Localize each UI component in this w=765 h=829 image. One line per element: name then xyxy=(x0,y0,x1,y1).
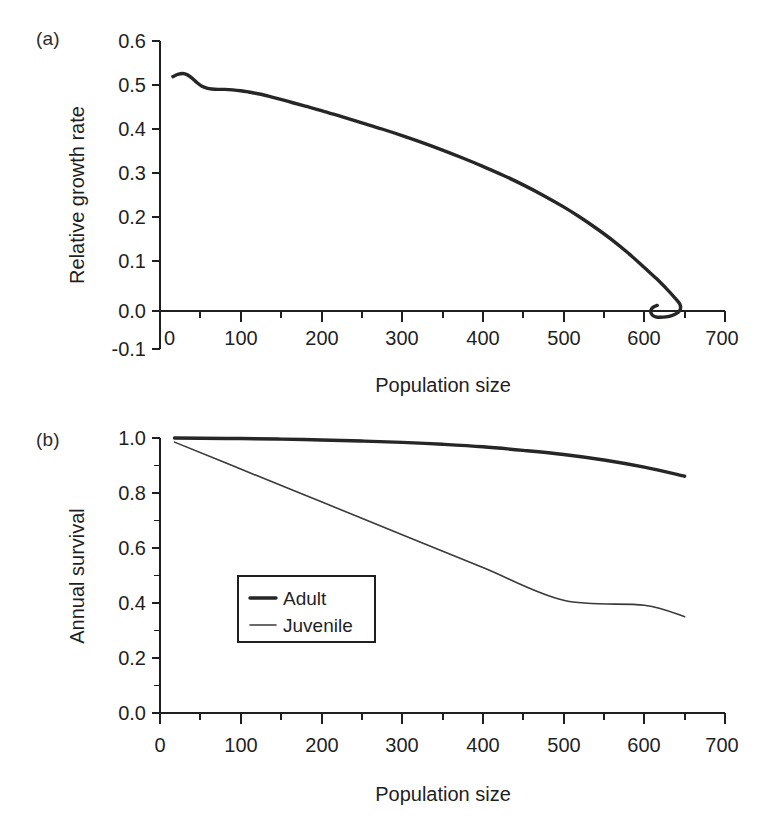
y-tick-label: 0.8 xyxy=(118,482,146,504)
x-tick-label: 0 xyxy=(154,734,165,756)
y-axis-title-a: Relative growth rate xyxy=(66,106,88,284)
x-tick-label: 400 xyxy=(466,734,499,756)
series-line-growth-rate xyxy=(173,74,681,318)
y-tick-label: 0.2 xyxy=(118,206,146,228)
panel-b-plot: 1.0 0.8 0.6 0.4 0.2 0.0 xyxy=(0,411,765,829)
x-tick-label: 500 xyxy=(547,327,580,349)
y-tick-label: 0.3 xyxy=(118,162,146,184)
x-tick-label: 300 xyxy=(385,327,418,349)
legend-label-juvenile: Juvenile xyxy=(283,615,353,636)
x-tick-label: 100 xyxy=(224,734,257,756)
x-axis-title-a: Population size xyxy=(375,374,511,396)
y-tick-labels-a: 0.6 0.5 0.4 0.3 0.2 0.1 0.0 -0.1 xyxy=(112,30,146,360)
legend-label-adult: Adult xyxy=(283,588,327,609)
y-ticks-a xyxy=(152,41,160,349)
y-tick-label: 0.6 xyxy=(118,537,146,559)
y-axis-title-b: Annual survival xyxy=(66,508,88,644)
x-tick-label: 400 xyxy=(466,327,499,349)
y-tick-label: 0.4 xyxy=(118,118,146,140)
x-tick-label: 200 xyxy=(305,734,338,756)
y-tick-labels-b: 1.0 0.8 0.6 0.4 0.2 0.0 xyxy=(118,427,146,724)
x-tick-label: 500 xyxy=(547,734,580,756)
x-tick-label: 600 xyxy=(627,327,660,349)
x-tick-label: 600 xyxy=(627,734,660,756)
y-ticks-b xyxy=(152,438,160,713)
y-tick-label: 0.0 xyxy=(118,300,146,322)
y-tick-label: 0.2 xyxy=(118,647,146,669)
y-tick-label: 0.6 xyxy=(118,30,146,52)
x-tick-label: 200 xyxy=(305,327,338,349)
x-ticks-a xyxy=(160,311,725,322)
y-tick-label: 0.1 xyxy=(118,250,146,272)
panel-a: (a) 0.6 0.5 0.4 0.3 xyxy=(0,0,765,415)
x-tick-labels-a: 0 100 200 300 400 500 600 700 xyxy=(164,327,739,349)
x-ticks-b xyxy=(160,713,725,724)
legend: Adult Juvenile xyxy=(238,576,375,642)
figure-root: (a) 0.6 0.5 0.4 0.3 xyxy=(0,0,765,829)
x-axis-title-b: Population size xyxy=(375,783,511,805)
y-tick-label: 0.5 xyxy=(118,74,146,96)
x-tick-label: 0 xyxy=(164,327,175,349)
panel-b: (b) 1.0 0.8 0.6 xyxy=(0,411,765,826)
panel-a-plot: 0.6 0.5 0.4 0.3 0.2 0.1 0.0 -0.1 xyxy=(0,0,765,415)
y-tick-label: 0.4 xyxy=(118,592,146,614)
x-tick-labels-b: 0 100 200 300 400 500 600 700 xyxy=(154,734,738,756)
y-tick-label: -0.1 xyxy=(112,338,146,360)
x-tick-label: 100 xyxy=(224,327,257,349)
x-tick-label: 700 xyxy=(705,327,738,349)
y-tick-label: 0.0 xyxy=(118,702,146,724)
y-tick-label: 1.0 xyxy=(118,427,146,449)
series-line-adult xyxy=(175,438,685,476)
x-tick-label: 300 xyxy=(385,734,418,756)
x-tick-label: 700 xyxy=(705,734,738,756)
